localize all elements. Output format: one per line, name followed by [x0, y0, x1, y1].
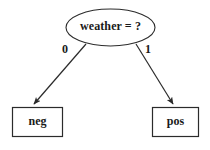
leaf-node-pos-label: pos: [152, 115, 199, 127]
edge-label-one: 1: [145, 43, 151, 55]
decision-tree-diagram: weather = ? 0 1 neg pos: [0, 0, 210, 150]
edge-root-to-pos: [136, 44, 173, 104]
edge-root-to-neg: [34, 44, 86, 104]
root-node-label: weather = ?: [66, 20, 155, 32]
edge-label-zero: 0: [62, 43, 68, 55]
leaf-node-neg-label: neg: [12, 115, 63, 127]
